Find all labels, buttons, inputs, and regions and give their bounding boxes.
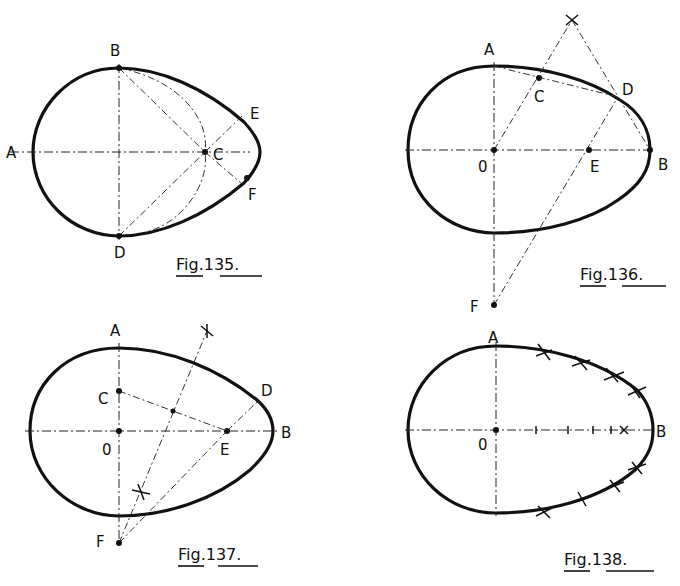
egg-construction-diagrams: B A C E F D Fig.135. A C D 0 E B F Fig.1 [0, 0, 680, 586]
figure-138: A B 0 Fig.138. [405, 329, 666, 571]
point-d [116, 233, 122, 239]
label-d: D [261, 382, 273, 400]
point-c [202, 149, 208, 155]
label-a: A [484, 41, 495, 59]
point-midpoint [171, 409, 176, 414]
label-f: F [96, 533, 105, 551]
label-o: 0 [102, 441, 112, 459]
construction-line-ce [205, 116, 242, 152]
construction-cross-mark-bottom [132, 484, 150, 500]
label-f: F [248, 186, 257, 204]
label-a: A [6, 144, 17, 162]
label-e: E [220, 441, 229, 459]
label-e: E [250, 105, 259, 123]
label-c: C [98, 390, 108, 408]
label-e: E [590, 158, 599, 176]
figure-135: B A C E F D Fig.135. [6, 42, 262, 276]
construction-cross-mark-top [201, 324, 213, 338]
construction-line-ed [227, 401, 258, 431]
point-f [491, 302, 497, 308]
figure-137: A C D 0 E B F Fig.137. [25, 322, 291, 566]
point-e [586, 147, 592, 153]
label-d: D [622, 81, 634, 99]
point-b [647, 147, 653, 153]
point-o [491, 147, 497, 153]
caption-fig-137: Fig.137. [178, 545, 241, 564]
label-a: A [488, 329, 499, 347]
construction-line-xb [572, 20, 650, 150]
construction-line-fe [119, 431, 227, 543]
construction-arc [119, 68, 206, 232]
label-b: B [658, 156, 668, 174]
label-o: 0 [478, 158, 488, 176]
caption-fig-138: Fig.138. [564, 550, 627, 569]
point-o [493, 427, 499, 433]
label-d: D [114, 244, 126, 262]
point-f [244, 175, 250, 181]
egg-outline [30, 348, 273, 516]
construction-cross-mark [566, 15, 578, 25]
caption-fig-135: Fig.135. [176, 255, 239, 274]
construction-line-bc [119, 68, 205, 152]
construction-line-dc [119, 152, 205, 236]
point-e [224, 428, 230, 434]
construction-line-ad [494, 66, 618, 97]
point-c [116, 388, 122, 394]
figure-136: A C D 0 E B F Fig.136. [405, 15, 668, 316]
point-c [536, 75, 542, 81]
label-f: F [470, 298, 479, 316]
construction-line-cf [205, 152, 242, 184]
label-c: C [213, 146, 223, 164]
label-c: C [534, 88, 544, 106]
label-b: B [281, 424, 291, 442]
construction-line-oc [494, 20, 572, 150]
point-o [116, 428, 122, 434]
label-a: A [110, 322, 121, 340]
label-o: 0 [478, 436, 488, 454]
plotted-point-cross-marks [536, 344, 646, 518]
point-f [116, 540, 122, 546]
caption-fig-136: Fig.136. [580, 265, 643, 284]
label-b: B [110, 42, 120, 60]
label-b: B [656, 423, 666, 441]
point-b [116, 65, 122, 71]
